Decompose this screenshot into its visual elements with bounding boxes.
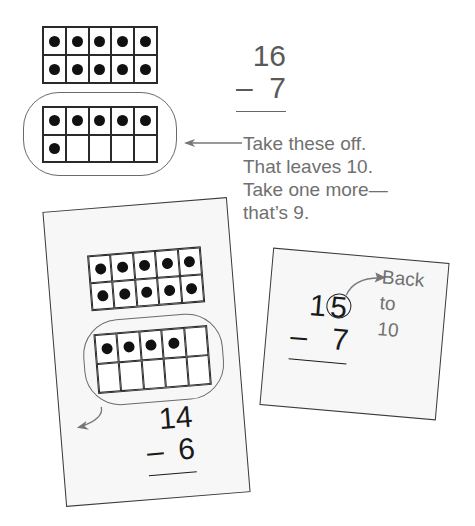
- ten-frame-cell: [186, 355, 211, 386]
- counter-dot-icon: [141, 286, 153, 298]
- ten-frame-cell: [111, 27, 134, 55]
- counter-dot-icon: [94, 64, 105, 75]
- counter-dot-icon: [97, 290, 109, 302]
- ten-frame-cell: [43, 107, 66, 135]
- answer-line: [149, 471, 197, 476]
- answer-line: [236, 111, 286, 112]
- counter-dot-icon: [49, 36, 60, 47]
- curved-arrow-icon: [73, 404, 115, 437]
- ten-frame-cell: [155, 249, 179, 278]
- minus-sign: –: [146, 436, 165, 467]
- counter-dot-icon: [164, 285, 176, 297]
- practice-card-right: 15 – 7 Back to 10: [259, 248, 449, 421]
- ten-frame-cell: [97, 362, 122, 393]
- counter-dot-icon: [49, 143, 60, 154]
- subtrahend: 6: [177, 431, 196, 465]
- practice-card-left: 14 – 6: [42, 197, 250, 507]
- ten-frame-cell: [89, 107, 112, 135]
- minuend: 16: [236, 41, 286, 73]
- counter-dot-icon: [101, 343, 113, 355]
- ten-frame-cell: [110, 253, 134, 282]
- counter-dot-icon: [94, 36, 105, 47]
- minus-sign: –: [289, 320, 308, 351]
- minuend-tens: 1: [308, 288, 328, 322]
- ten-frame-cell: [66, 135, 89, 163]
- ten-frame-cell: [177, 247, 201, 276]
- ten-frame-cell: [94, 333, 119, 364]
- ten-frame-cell: [184, 326, 209, 357]
- ten-frame-cell: [134, 55, 157, 83]
- counter-dot-icon: [184, 256, 196, 268]
- ten-frame-cell: [66, 107, 89, 135]
- ten-frame-cell: [134, 27, 157, 55]
- counter-dot-icon: [140, 115, 151, 126]
- ten-frame-cell: [139, 330, 164, 361]
- subtraction-problem-top: 16 – 7: [236, 41, 286, 112]
- counter-dot-icon: [117, 115, 128, 126]
- subtrahend: 7: [269, 71, 286, 104]
- counter-dot-icon: [49, 64, 60, 75]
- note-line: That leaves 10.: [243, 155, 388, 178]
- counter-dot-icon: [123, 341, 135, 353]
- note-line: Take one more—: [243, 178, 388, 201]
- ten-frame-cell: [161, 328, 186, 359]
- ten-frame-cell: [157, 276, 181, 305]
- ten-frame-cell: [113, 280, 137, 309]
- counter-dot-icon: [49, 115, 60, 126]
- ten-frame-cell: [43, 135, 66, 163]
- answer-line: [289, 358, 347, 364]
- counter-dot-icon: [94, 263, 106, 275]
- counter-dot-icon: [72, 36, 83, 47]
- ten-frame-cell: [66, 55, 89, 83]
- subtrahend-row: – 6: [146, 433, 196, 469]
- note-line: 10: [376, 316, 420, 346]
- counter-dot-icon: [186, 283, 198, 295]
- back-to-ten-note: Back to 10: [376, 264, 425, 345]
- ten-frame-cell: [111, 107, 134, 135]
- ten-frame-cell: [134, 107, 157, 135]
- ten-frame-partial-card: [93, 325, 211, 394]
- counter-dot-icon: [117, 36, 128, 47]
- counter-dot-icon: [72, 115, 83, 126]
- ten-frame-full-top: [42, 26, 158, 84]
- counter-dot-icon: [117, 64, 128, 75]
- ten-frame-cell: [180, 274, 204, 303]
- ten-frame-cell: [111, 135, 134, 163]
- counter-dot-icon: [140, 64, 151, 75]
- ten-frame-cell: [66, 27, 89, 55]
- note-line: Take these off.: [243, 132, 388, 155]
- ten-frame-full-card: [87, 246, 205, 311]
- ten-frame-partial-top: [42, 106, 158, 163]
- ten-frame-cell: [133, 251, 157, 280]
- subtrahend: 7: [330, 322, 350, 356]
- strategy-note: Take these off. That leaves 10. Take one…: [243, 132, 388, 224]
- note-line: that’s 9.: [243, 201, 388, 224]
- counter-dot-icon: [146, 339, 158, 351]
- subtraction-problem-right-card: 15 – 7: [289, 289, 353, 365]
- counter-dot-icon: [168, 337, 180, 349]
- counter-dot-icon: [119, 288, 131, 300]
- counter-dot-icon: [139, 259, 151, 271]
- note-line: Back: [381, 264, 425, 294]
- ten-frame-cell: [43, 27, 66, 55]
- counter-dot-icon: [140, 36, 151, 47]
- subtraction-problem-card: 14 – 6: [143, 402, 197, 477]
- counter-dot-icon: [94, 115, 105, 126]
- subtrahend-row: – 7: [236, 73, 286, 105]
- counter-dot-icon: [161, 258, 173, 270]
- ten-frame-cell: [119, 360, 144, 391]
- ten-frame-cell: [111, 55, 134, 83]
- ten-frame-cell: [89, 27, 112, 55]
- counter-dot-icon: [72, 64, 83, 75]
- ten-frame-cell: [90, 281, 114, 310]
- ten-frame-cell: [164, 357, 189, 388]
- note-line: to: [379, 290, 423, 320]
- ten-frame-cell: [89, 55, 112, 83]
- ten-frame-cell: [141, 359, 166, 390]
- ten-frame-cell: [117, 332, 142, 363]
- ten-frame-cell: [88, 255, 112, 284]
- ten-frame-cell: [89, 135, 112, 163]
- subtrahend-row: – 7: [289, 320, 350, 357]
- ten-frame-cell: [43, 55, 66, 83]
- ten-frame-cell: [134, 135, 157, 163]
